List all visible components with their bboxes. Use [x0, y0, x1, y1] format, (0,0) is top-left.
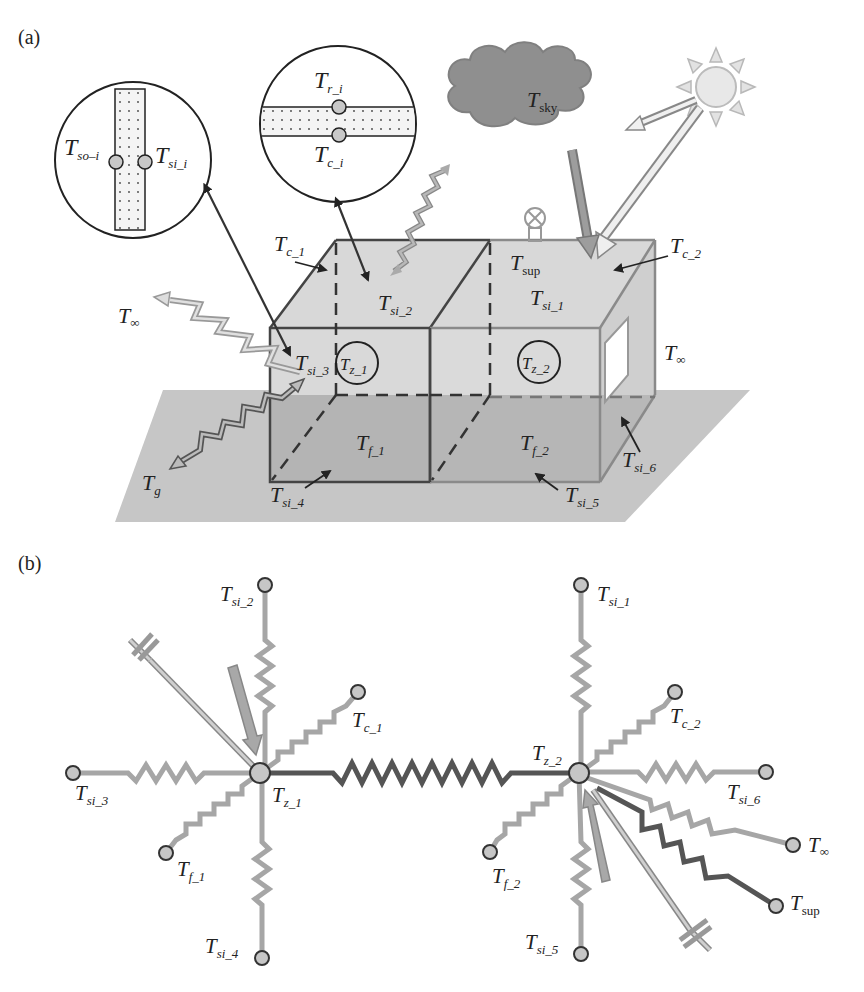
b-tz1-label: Tz_1 — [272, 783, 302, 810]
panel-a-label: (a) — [18, 26, 40, 49]
supply-fan-icon — [525, 208, 545, 241]
b-tz2-label: Tz_2 — [532, 741, 562, 768]
zone2-front-upper — [430, 328, 600, 395]
wall-inset: Tso–i Tsi_i — [55, 82, 211, 238]
zone2-capacitance — [593, 790, 711, 950]
node-tsi4 — [255, 951, 269, 965]
b-tsi5-label: Tsi_5 — [525, 930, 559, 957]
roof-inset: Tr_i Tc_i — [258, 46, 418, 202]
thermal-network-figure: (a) Tz_1 Tz_2 — [0, 0, 864, 992]
zone1-front-lower — [270, 395, 430, 482]
node-tf2 — [483, 845, 497, 859]
b-tc1-label: Tc_1 — [352, 708, 382, 735]
node-tsi1 — [574, 578, 588, 592]
node-tsup — [769, 899, 783, 913]
node-tsi2 — [258, 578, 272, 592]
b-tc2-label: Tc_2 — [670, 704, 701, 731]
b-tf2-label: Tf_2 — [492, 864, 521, 891]
node-tsi5 — [574, 947, 588, 961]
tinf-left-label: T∞ — [118, 303, 140, 330]
zone2-network — [490, 585, 793, 954]
interzone-resistor — [260, 763, 579, 783]
node-tsi6 — [759, 765, 773, 779]
sun-icon — [677, 48, 755, 126]
tinf-right-label: T∞ — [664, 340, 686, 367]
panel-b-label: (b) — [18, 552, 41, 575]
b-tsi1-label: Tsi_1 — [597, 582, 630, 609]
solar-to-roof-arrow — [596, 108, 700, 258]
node-tinf — [786, 838, 800, 852]
b-tf1-label: Tf_1 — [177, 857, 205, 884]
sky-cloud — [448, 42, 591, 126]
tc1-label: Tc_1 — [274, 231, 305, 259]
b-tsup-label: Tsup — [790, 891, 820, 918]
zone2-front-lower — [430, 395, 600, 482]
node-tc1 — [351, 685, 365, 699]
node-tf1 — [159, 846, 173, 860]
b-tinf-label: T∞ — [808, 833, 829, 859]
b-tsi3-label: Tsi_3 — [75, 781, 109, 808]
node-tsi3 — [66, 766, 80, 780]
b-tsi4-label: Tsi_4 — [205, 934, 239, 961]
node-tc2 — [668, 685, 682, 699]
b-tsi2-label: Tsi_2 — [220, 582, 254, 609]
b-tsi6-label: Tsi_6 — [727, 780, 761, 807]
node-tz1 — [250, 763, 270, 783]
node-tz2 — [569, 763, 589, 783]
tc2-label: Tc_2 — [670, 233, 702, 261]
